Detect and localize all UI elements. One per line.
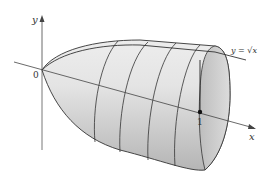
x-axis-label-main: x: [249, 131, 255, 142]
end-disk-face: [199, 46, 230, 170]
x-axis-arrow-icon: [248, 124, 256, 129]
y-axis-label: y: [31, 14, 38, 25]
point-x-equals-1: [198, 110, 202, 114]
curve-label: y = √x: [230, 46, 257, 55]
y-axis-arrow-icon: [40, 15, 45, 22]
origin-label: 0: [33, 70, 39, 80]
solid-of-revolution-diagram: y x x 0 1 y = √x: [0, 0, 268, 182]
tick-label-1: 1: [197, 117, 203, 127]
